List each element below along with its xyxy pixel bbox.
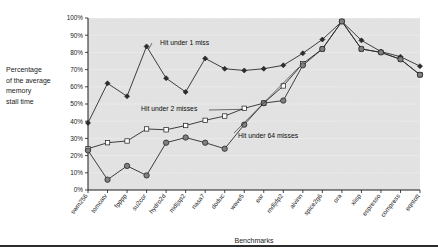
y-tick-label: 90% <box>70 32 83 39</box>
marker-square <box>125 139 129 143</box>
marker-square <box>242 106 246 110</box>
marker-circle <box>85 148 90 153</box>
series-annotation-label: Hit under 2 misses <box>141 105 198 112</box>
marker-circle <box>300 63 305 68</box>
y-tick-label: 30% <box>70 135 83 142</box>
y-tick-label: 100% <box>67 14 84 21</box>
x-axis-title: Benchmarks <box>235 237 274 244</box>
marker-square <box>164 128 168 132</box>
marker-circle <box>144 173 149 178</box>
marker-circle <box>163 140 168 145</box>
marker-circle <box>359 46 364 51</box>
y-axis-title-line: stall time <box>6 98 34 105</box>
y-tick-label: 60% <box>70 83 83 90</box>
chart-figure: 0%10%20%30%40%50%60%70%80%90%100% swm256… <box>0 0 438 248</box>
series-annotation-label: Hit under 64 misses <box>238 132 299 139</box>
figure-bottom-rule <box>0 245 438 247</box>
y-axis-title-line: Percentage <box>6 66 42 74</box>
marker-circle <box>183 135 188 140</box>
marker-circle <box>105 177 110 182</box>
series-annotation-label: Hit under 1 miss <box>160 39 210 46</box>
marker-square <box>203 118 207 122</box>
y-tick-label: 10% <box>70 169 83 176</box>
marker-circle <box>398 57 403 62</box>
marker-circle <box>320 46 325 51</box>
marker-circle <box>124 163 129 168</box>
x-axis-title: Benchmarks <box>235 237 274 244</box>
marker-square <box>223 114 227 118</box>
y-axis-title-line: memory <box>6 87 32 95</box>
y-tick-label: 40% <box>70 118 83 125</box>
marker-circle <box>281 98 286 103</box>
marker-circle <box>378 50 383 55</box>
marker-circle <box>417 72 422 77</box>
marker-square <box>183 123 187 127</box>
y-tick-label: 50% <box>70 100 83 107</box>
marker-circle <box>339 19 344 24</box>
y-tick-label: 20% <box>70 152 83 159</box>
y-tick-label: 80% <box>70 49 83 56</box>
memory-stall-line-chart: 0%10%20%30%40%50%60%70%80%90%100% swm256… <box>0 0 438 248</box>
y-tick-label: 0% <box>74 186 84 193</box>
y-tick-label: 70% <box>70 66 83 73</box>
marker-square <box>105 141 109 145</box>
marker-square <box>144 127 148 131</box>
marker-circle <box>222 146 227 151</box>
y-axis-title-line: of the average <box>6 77 51 85</box>
marker-circle <box>202 140 207 145</box>
